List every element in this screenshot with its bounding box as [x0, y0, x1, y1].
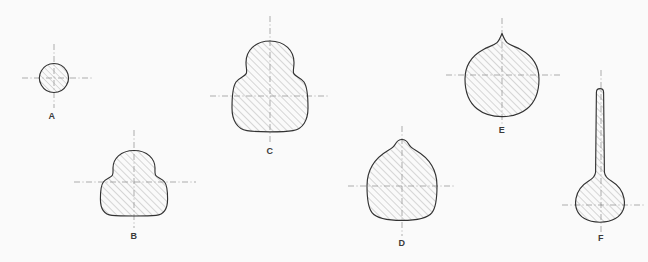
figure-label-c: C [267, 146, 274, 156]
figure-label-b: B [131, 231, 138, 241]
drawing-sheet: A B C D E F [0, 0, 648, 262]
figure-label-f: F [598, 233, 604, 243]
figure-label-d: D [399, 238, 406, 248]
figure-label-a: A [49, 111, 56, 121]
cross-section-drawing-canvas [0, 0, 648, 262]
figure-label-e: E [499, 125, 505, 135]
scan-grain [0, 0, 648, 262]
